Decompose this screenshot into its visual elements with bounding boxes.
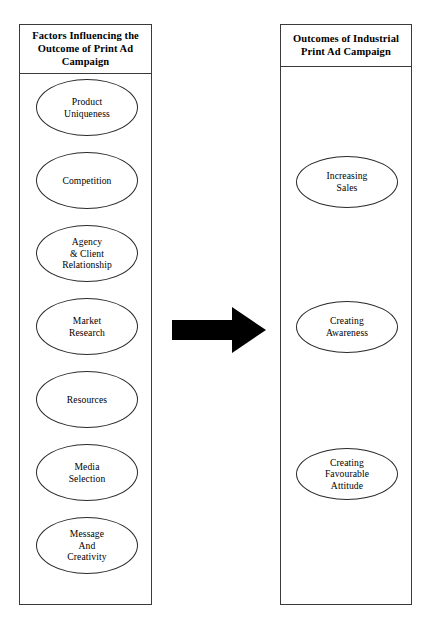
outcomes-panel: Outcomes of Industrial Print Ad Campaign… — [280, 24, 412, 605]
factor-node-label: Media Selection — [63, 461, 112, 484]
factor-node-label: Market Research — [63, 315, 111, 338]
outcome-node-label: Increasing Sales — [321, 170, 374, 193]
outcomes-panel-body: Increasing Sales Creating Awareness Crea… — [281, 67, 411, 606]
outcome-node-label: Creating Favourable Attitude — [319, 457, 375, 492]
factors-panel-body: Product Uniqueness Competition Agency & … — [20, 74, 151, 606]
factors-panel-header: Factors Influencing the Outcome of Print… — [20, 25, 151, 74]
factor-node-label: Message And Creativity — [61, 528, 112, 563]
factor-node-label: Product Uniqueness — [58, 96, 116, 119]
factor-node-message-and-creativity: Message And Creativity — [36, 517, 138, 574]
factor-node-media-selection: Media Selection — [36, 444, 138, 501]
factor-node-market-research: Market Research — [36, 298, 138, 355]
right-arrow-icon — [172, 307, 266, 353]
diagram-canvas: Factors Influencing the Outcome of Print… — [0, 0, 435, 619]
factor-node-label: Competition — [56, 175, 117, 187]
factor-node-agency-client-relationship: Agency & Client Relationship — [36, 225, 138, 282]
factor-node-product-uniqueness: Product Uniqueness — [36, 79, 138, 136]
outcome-node-creating-awareness: Creating Awareness — [296, 301, 398, 353]
outcome-node-creating-favourable-attitude: Creating Favourable Attitude — [296, 448, 398, 500]
outcome-node-label: Creating Awareness — [320, 315, 374, 338]
outcomes-panel-header: Outcomes of Industrial Print Ad Campaign — [281, 25, 411, 67]
factors-panel: Factors Influencing the Outcome of Print… — [19, 24, 152, 605]
factor-node-competition: Competition — [36, 152, 138, 209]
outcome-node-increasing-sales: Increasing Sales — [296, 156, 398, 208]
factor-node-resources: Resources — [36, 371, 138, 428]
factor-node-label: Resources — [61, 394, 113, 406]
factor-node-label: Agency & Client Relationship — [56, 236, 118, 271]
